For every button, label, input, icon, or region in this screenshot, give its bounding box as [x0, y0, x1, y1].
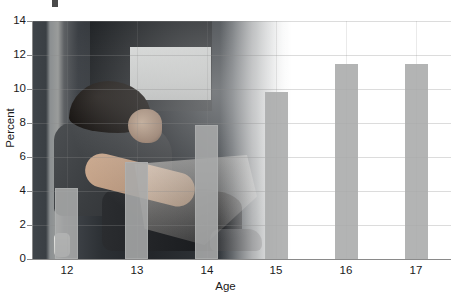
- y-tick-label-4: 4: [0, 185, 26, 196]
- gridline-y-2: [32, 225, 451, 226]
- y-axis-line: [32, 21, 33, 259]
- plot-area: [32, 21, 451, 259]
- y-tick-label-10: 10: [0, 83, 26, 94]
- y-tick-label-2: 2: [0, 219, 26, 230]
- y-axis-title: Percent: [4, 98, 16, 158]
- y-tick-label-12: 12: [0, 49, 26, 60]
- gridline-y-8: [32, 123, 451, 124]
- y-tick-label-14: 14: [0, 15, 26, 26]
- y-tick-mark-4: [27, 191, 32, 192]
- chart-screenshot: 02468101214 121314151617 Percent Age: [0, 0, 451, 297]
- x-tick-label-15: 15: [256, 264, 296, 276]
- bar-age-17: [405, 64, 428, 260]
- x-tick-label-16: 16: [326, 264, 366, 276]
- y-tick-mark-2: [27, 225, 32, 226]
- gridline-y-14: [32, 21, 451, 22]
- y-tick-mark-12: [27, 55, 32, 56]
- x-tick-label-12: 12: [47, 264, 87, 276]
- bar-age-16: [335, 64, 358, 260]
- gridline-y-10: [32, 89, 451, 90]
- y-tick-mark-6: [27, 157, 32, 158]
- bar-age-15: [265, 92, 288, 259]
- x-tick-label-14: 14: [187, 264, 227, 276]
- x-tick-label-13: 13: [117, 264, 157, 276]
- gridline-y-4: [32, 191, 451, 192]
- y-tick-mark-0: [27, 259, 32, 260]
- title-fragment: [52, 0, 58, 7]
- x-axis-line: [32, 259, 451, 260]
- bar-age-13: [125, 162, 148, 259]
- bar-age-14: [195, 125, 218, 259]
- y-tick-mark-14: [27, 21, 32, 22]
- y-tick-mark-10: [27, 89, 32, 90]
- gridline-y-12: [32, 55, 451, 56]
- gridline-y-6: [32, 157, 451, 158]
- y-tick-mark-8: [27, 123, 32, 124]
- y-tick-label-0: 0: [0, 253, 26, 264]
- x-tick-label-17: 17: [396, 264, 436, 276]
- x-axis-title: Age: [0, 280, 451, 292]
- bar-age-12: [55, 188, 78, 259]
